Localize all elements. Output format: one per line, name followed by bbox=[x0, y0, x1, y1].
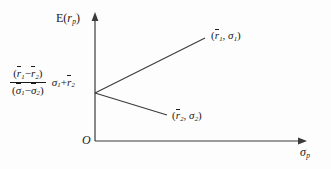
tail-var2: r bbox=[67, 76, 71, 88]
upper-point-label: (r1, σ1) bbox=[211, 30, 241, 43]
lower-point-label: (r2, σ2) bbox=[172, 110, 202, 123]
upper-point-var1: r bbox=[215, 30, 219, 41]
y-axis-arrowhead bbox=[92, 12, 99, 21]
denominator-var1: σ bbox=[16, 84, 21, 96]
y-axis-label-fn: E( bbox=[56, 11, 67, 25]
intercept-denominator: (σ1−σ2) bbox=[10, 83, 46, 98]
lower-point-close: ) bbox=[198, 109, 202, 121]
y-axis-label: E(rp) bbox=[56, 12, 80, 26]
numerator-var2: r bbox=[31, 67, 35, 79]
x-axis-label: σp bbox=[300, 146, 310, 160]
y-axis-label-close: ) bbox=[76, 11, 80, 25]
upper-point-close: ) bbox=[237, 29, 241, 41]
intercept-fraction: (r1−r2) (σ1−σ2) bbox=[10, 67, 46, 97]
numerator-var1: r bbox=[17, 67, 21, 79]
upper-ray-line bbox=[95, 38, 205, 93]
lower-point-var2: σ bbox=[189, 109, 194, 121]
origin-label: O bbox=[82, 134, 91, 146]
lower-point-var1: r bbox=[176, 110, 180, 121]
intercept-expression: (r1−r2) (σ1−σ2) σ1+r2 bbox=[10, 67, 75, 97]
numerator-close: ) bbox=[39, 67, 43, 79]
x-axis-arrowhead bbox=[298, 138, 307, 145]
denominator-close: ) bbox=[40, 84, 44, 96]
denominator-var2: σ bbox=[31, 84, 36, 96]
x-axis-label-sub: p bbox=[306, 151, 310, 160]
intercept-numerator: (r1−r2) bbox=[11, 67, 44, 82]
lower-ray-line bbox=[95, 93, 167, 115]
tail-sub2: 2 bbox=[71, 81, 75, 88]
intercept-tail: σ1+r2 bbox=[46, 76, 75, 89]
upper-point-var2: σ bbox=[228, 29, 233, 41]
efficient-frontier-figure: E(rp) σp O (r1, σ1) (r2, σ2) (r1−r2) (σ1… bbox=[0, 0, 331, 169]
